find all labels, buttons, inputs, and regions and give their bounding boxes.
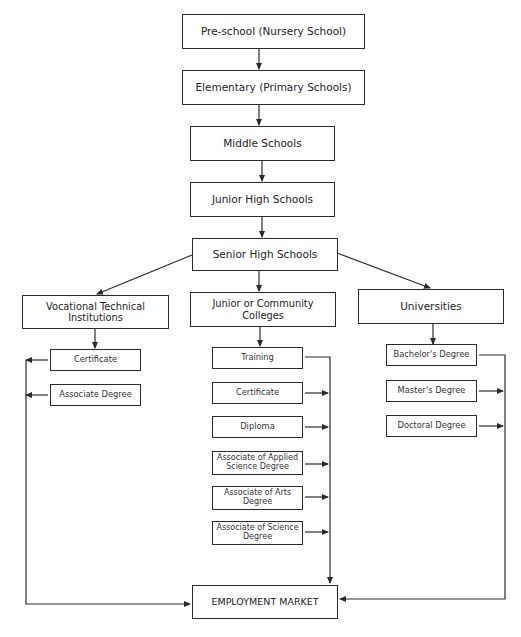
node-employment-market: EMPLOYMENT MARKET [192,585,338,619]
node-label: Universities [400,300,462,312]
node-community-colleges: Junior or Community Colleges [190,292,336,327]
outcome-cc-certificate: Certificate [212,382,303,404]
node-label: Associate of Science Degree [216,524,299,542]
outcome-cc-diploma: Diploma [212,416,303,438]
node-universities: Universities [358,289,504,324]
node-label: Elementary (Primary Schools) [195,81,351,93]
node-label: Doctoral Degree [398,421,466,431]
outcome-masters: Master's Degree [386,380,477,402]
node-label: Diploma [240,422,275,432]
education-flowchart: Pre-school (Nursery School) Elementary (… [0,0,521,637]
node-label: EMPLOYMENT MARKET [211,597,318,608]
node-label: Certificate [236,388,279,398]
outcome-cc-training: Training [212,347,303,369]
node-label: Bachelor's Degree [394,350,470,360]
node-senior-high: Senior High Schools [192,238,338,271]
outcome-bachelors: Bachelor's Degree [386,344,477,366]
node-label: Vocational Technical Institutions [23,301,168,324]
node-middle-schools: Middle Schools [190,126,335,161]
node-label: Master's Degree [398,386,466,396]
node-vocational-technical: Vocational Technical Institutions [22,295,169,329]
node-label: Pre-school (Nursery School) [201,25,346,37]
node-label: Associate of Applied Science Degree [216,454,299,472]
node-label: Associate of Arts Degree [221,489,294,507]
node-label: Junior High Schools [212,193,313,205]
node-label: Training [241,353,274,363]
node-label: Junior or Community Colleges [191,298,335,321]
outcome-cc-aas: Associate of Applied Science Degree [212,451,303,475]
outcome-vocational-associate: Associate Degree [50,384,141,406]
outcome-cc-as: Associate of Science Degree [212,521,303,545]
outcome-doctoral: Doctoral Degree [386,415,477,437]
outcome-cc-aa: Associate of Arts Degree [212,486,303,510]
node-label: Senior High Schools [213,248,318,260]
outcome-vocational-certificate: Certificate [50,349,141,371]
node-label: Middle Schools [223,137,301,149]
node-junior-high: Junior High Schools [190,182,335,217]
node-elementary: Elementary (Primary Schools) [182,70,365,105]
node-label: Associate Degree [59,390,132,400]
node-label: Certificate [74,355,117,365]
node-preschool: Pre-school (Nursery School) [182,14,365,49]
